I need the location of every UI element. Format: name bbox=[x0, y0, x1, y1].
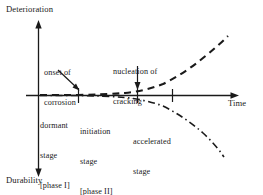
phase-label-dormant: dormant stage [phase I] bbox=[40, 101, 70, 195]
phase-label-dormant-line-1: dormant bbox=[40, 121, 70, 131]
phase-label-initiation-line-2: stage bbox=[80, 157, 113, 167]
axis-title-deterioration: Deterioration bbox=[6, 4, 53, 14]
axis-title-time: Time bbox=[228, 98, 246, 108]
phase-label-initiation: initiation stage [phase II] bbox=[80, 107, 113, 195]
phase-label-accelerated: accelerated stage [phase III] bbox=[133, 117, 171, 195]
phase-label-dormant-line-2: stage bbox=[40, 151, 70, 161]
phase-label-initiation-line-3: [phase II] bbox=[80, 187, 113, 195]
corrosion-deterioration-diagram: Deterioration Durability Time onset of c… bbox=[0, 0, 263, 195]
annotation-nucleation-line-1: nucleation of bbox=[113, 67, 157, 77]
phase-label-accelerated-line-1: accelerated bbox=[133, 137, 171, 147]
annotation-nucleation-of-cracking: nucleation of cracking bbox=[113, 47, 157, 127]
annotation-nucleation-line-2: cracking bbox=[113, 97, 157, 107]
annotation-onset-line-1: onset of bbox=[44, 68, 76, 78]
phase-label-initiation-line-1: initiation bbox=[80, 127, 113, 137]
phase-label-dormant-line-3: [phase I] bbox=[40, 181, 70, 191]
axis-title-durability: Durability bbox=[6, 175, 42, 185]
vertical-axis-up-arrowhead bbox=[35, 20, 41, 29]
phase-label-accelerated-line-2: stage bbox=[133, 167, 171, 177]
